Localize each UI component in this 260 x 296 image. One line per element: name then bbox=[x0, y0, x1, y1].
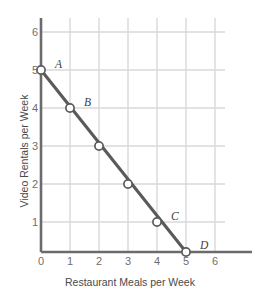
x-tick-label-6: 6 bbox=[205, 255, 225, 267]
x-tick-label-4: 4 bbox=[147, 255, 167, 267]
point-label-d: D bbox=[200, 239, 208, 251]
y-axis-title: Video Rentals per Week bbox=[18, 71, 30, 231]
data-point-3 bbox=[95, 142, 103, 150]
x-tick-label-1: 1 bbox=[60, 255, 80, 267]
x-tick-label-0: 0 bbox=[31, 255, 51, 267]
gridlines-horizontal bbox=[41, 32, 225, 222]
point-label-a: A bbox=[55, 58, 62, 70]
x-axis-title: Restaurant Meals per Week bbox=[0, 276, 260, 288]
data-point-b bbox=[66, 104, 74, 112]
point-label-b: B bbox=[84, 96, 91, 108]
x-tick-label-5: 5 bbox=[176, 255, 196, 267]
data-point-4 bbox=[124, 180, 132, 188]
plot-area bbox=[0, 0, 260, 296]
y-tick-label-6: 6 bbox=[22, 26, 38, 38]
data-line-budget-constraint bbox=[41, 70, 186, 252]
data-point-a bbox=[37, 66, 45, 74]
x-tick-label-3: 3 bbox=[118, 255, 138, 267]
x-tick-label-2: 2 bbox=[89, 255, 109, 267]
data-point-c bbox=[153, 218, 161, 226]
point-label-c: C bbox=[171, 210, 179, 222]
chart-container: 6 5 4 3 2 1 0 1 2 3 4 5 6 A B C D Restau… bbox=[0, 0, 260, 296]
